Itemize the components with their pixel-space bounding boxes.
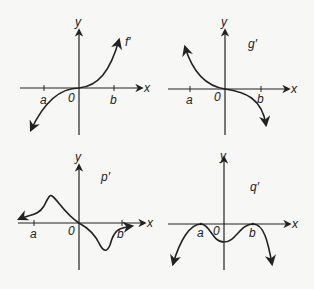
a-label: a — [186, 93, 193, 107]
function-label: q′ — [250, 180, 260, 194]
function-label: f′ — [125, 35, 131, 49]
b-label: b — [249, 226, 256, 240]
y-label: y — [219, 149, 227, 163]
y-label: y — [220, 15, 228, 29]
a-label: a — [197, 226, 204, 240]
x-label: x — [291, 217, 299, 231]
function-label: p′ — [100, 170, 111, 184]
y-label: y — [74, 15, 82, 29]
origin-label: 0 — [68, 91, 75, 105]
x-label: x — [143, 81, 151, 95]
graph-g-prime: x y a 0 b g′ — [168, 15, 298, 135]
b-label: b — [117, 227, 124, 241]
b-label: b — [257, 92, 264, 106]
tick-b — [252, 223, 255, 226]
b-label: b — [110, 93, 117, 107]
curve-q-prime — [173, 224, 272, 264]
a-label: a — [40, 93, 47, 107]
tick-a — [200, 223, 203, 226]
graph-q-prime: x y a 0 b q′ — [168, 149, 299, 270]
derivative-graphs-figure: x y a 0 b f′ x y a 0 b g′ x y a 0 b p′ — [0, 0, 314, 289]
function-label: g′ — [248, 37, 258, 51]
x-label: x — [146, 216, 154, 230]
x-label: x — [290, 82, 298, 96]
graph-f-prime: x y a 0 b f′ — [20, 15, 151, 135]
graphs-canvas: x y a 0 b f′ x y a 0 b g′ x y a 0 b p′ — [0, 0, 314, 289]
origin-label: 0 — [214, 90, 221, 104]
a-label: a — [30, 227, 37, 241]
origin-label: 0 — [213, 224, 220, 238]
origin-label: 0 — [68, 224, 75, 238]
y-label: y — [74, 150, 82, 164]
graph-p-prime: x y a 0 b p′ — [18, 150, 154, 270]
